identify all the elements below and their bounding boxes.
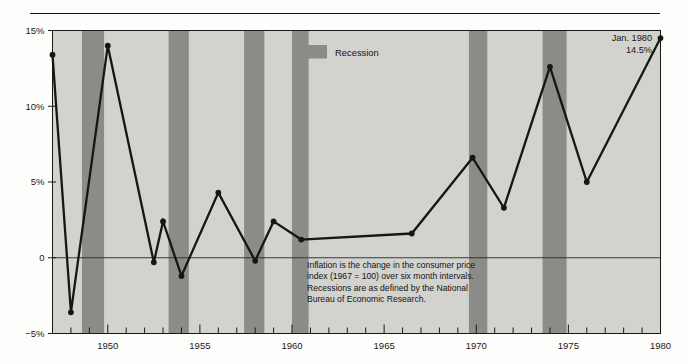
recession-band-3 [244,31,264,334]
y-tick-label-0: 0 [39,252,44,263]
callout-line-2: 14.5% [626,45,652,55]
data-point-1960.5 [298,237,304,243]
x-tick-label-1975: 1975 [558,340,579,351]
y-tick-label--5: −5% [25,328,45,339]
data-point-1952.5 [151,259,157,265]
data-point-1966.5 [409,231,415,237]
recession-band-5 [469,31,487,334]
data-point-1974 [547,64,553,70]
x-tick-label-1960: 1960 [281,340,302,351]
data-point-1956 [215,190,221,196]
data-point-1959 [271,218,277,224]
y-tick-label-5: 5% [31,176,45,187]
x-tick-label-1965: 1965 [374,340,395,351]
x-tick-label-1980: 1980 [650,340,671,351]
methodology-note-line-2: index (1967 = 100) over six month interv… [307,271,474,281]
data-point-1976 [584,179,590,185]
chart-legend: Recession [307,45,379,59]
x-tick-label-1970: 1970 [466,340,487,351]
data-point-1969.8 [470,155,476,161]
inflation-chart-figure: −5%05%10%15% 195019551960196519701975198… [0,0,690,364]
x-tick-label-1955: 1955 [189,340,210,351]
legend-swatch-recession [307,45,327,59]
methodology-note-line-1: Inflation is the change in the consumer … [307,260,475,270]
y-axis-tick-labels: −5%05%10%15% [25,25,45,339]
recession-band-2 [169,31,189,334]
data-point-1948 [68,309,74,315]
chart-canvas: −5%05%10%15% 195019551960196519701975198… [0,0,690,364]
data-point-1954 [179,273,185,279]
data-point-1971.5 [501,205,507,211]
data-point-1980 [658,35,664,41]
data-point-1947 [50,52,56,58]
x-tick-label-1950: 1950 [97,340,118,351]
methodology-note-line-4: Bureau of Economic Research. [307,294,426,304]
y-tick-label-10: 10% [25,101,45,112]
data-point-1950 [105,43,111,49]
methodology-note-line-3: Recessions are as defined by the Nationa… [307,283,468,293]
legend-label-recession: Recession [335,47,379,58]
data-point-1958 [252,258,258,264]
line-chart-svg: −5%05%10%15% 195019551960196519701975198… [0,0,690,364]
y-tick-label-15: 15% [25,25,45,36]
x-axis-tick-labels: 1950195519601965197019751980 [97,340,671,351]
recession-band-1 [82,31,104,334]
data-point-1953 [160,218,166,224]
callout-line-1: Jan. 1980 [612,33,652,43]
